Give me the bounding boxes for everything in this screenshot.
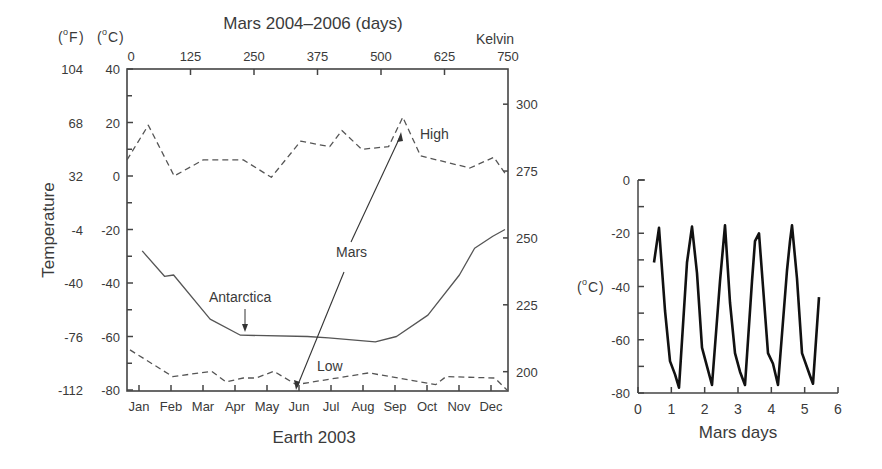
series-mars-temperature [654,225,819,387]
month-tick-label: Feb [160,399,182,414]
month-tick-label: Mar [192,399,215,414]
top-tick-label: 375 [307,49,329,64]
celsius-tick-label: 40 [106,62,120,77]
right-chart-series [654,225,819,387]
right-x-tick-label: 4 [767,401,775,417]
svg-text:o: o [63,27,68,37]
x-axis-title: Earth 2003 [272,428,355,447]
kelvin-tick-label: 300 [516,97,538,112]
plot-frame [127,69,508,391]
month-tick-label: Jan [129,399,150,414]
svg-text:F: F [69,29,78,45]
right-y-tick-label: 0 [623,173,630,188]
month-tick-label: Dec [479,399,503,414]
right-x-tick-label: 6 [834,401,842,417]
celsius-tick-label: -40 [101,276,120,291]
celsius-tick-label: -60 [101,330,120,345]
kelvin-tick-label: 250 [516,231,538,246]
right-y-tick-label: -80 [611,386,630,401]
series-high [127,117,507,177]
kelvin-axis-label: Kelvin [476,31,514,47]
left-chart-axes: 0125250375500625750401042068032-20-4-40-… [58,49,538,414]
left-chart-series [127,117,507,390]
svg-text:o: o [102,27,107,37]
fahrenheit-tick-label: -4 [71,223,83,238]
svg-text:): ) [119,29,124,45]
top-axis-title: Mars 2004–2006 (days) [223,14,403,33]
right-y-tick-label: -40 [611,280,630,295]
svg-text:): ) [79,29,84,45]
celsius-tick-label: 0 [113,169,120,184]
top-tick-label: 625 [434,49,456,64]
right-x-axis-title: Mars days [699,423,777,442]
month-tick-label: May [255,399,280,414]
fahrenheit-tick-label: 104 [61,62,83,77]
month-tick-label: Nov [447,399,471,414]
month-tick-label: Sep [383,399,406,414]
kelvin-tick-label: 200 [516,365,538,380]
annotation-high: High [420,126,449,142]
arrow-head-up-icon [397,132,403,142]
figure: Mars 2004–2006 (days) Kelvin ( o F ) ( o… [0,0,882,469]
celsius-tick-label: 20 [106,116,120,131]
annotation-low: Low [317,358,344,374]
right-y-tick-label: -20 [611,226,630,241]
annotation-antarctica: Antarctica [209,289,271,305]
mars-arrow [294,132,403,390]
top-tick-label: 750 [497,49,519,64]
fahrenheit-tick-label: -76 [64,330,83,345]
svg-text:o: o [582,277,587,287]
top-tick-label: 0 [127,49,134,64]
right-x-tick-label: 2 [701,401,709,417]
right-x-tick-label: 1 [667,401,675,417]
top-tick-label: 500 [370,49,392,64]
month-tick-label: Apr [225,399,246,414]
series-antarctica [142,230,505,342]
kelvin-tick-label: 275 [516,164,538,179]
right-chart-axes: 0-20-40-60-800123456 [611,173,842,417]
fahrenheit-unit-label: ( o F ) [58,27,84,45]
fahrenheit-tick-label: 32 [69,169,83,184]
svg-text:): ) [599,279,604,295]
right-x-tick-label: 0 [634,401,642,417]
antarctica-arrow [242,309,248,332]
svg-text:C: C [108,29,118,45]
month-tick-label: Oct [417,399,438,414]
fahrenheit-tick-label: -112 [58,383,83,398]
celsius-tick-label: -80 [101,383,120,398]
month-tick-label: Jul [323,399,340,414]
y-axis-title: Temperature [39,182,58,277]
fahrenheit-tick-label: -40 [64,276,83,291]
right-x-tick-label: 3 [734,401,742,417]
top-tick-label: 125 [180,49,202,64]
kelvin-tick-label: 225 [516,298,538,313]
month-tick-label: Aug [351,399,374,414]
svg-text:C: C [588,279,598,295]
month-tick-label: Jun [289,399,310,414]
fahrenheit-tick-label: 68 [69,116,83,131]
right-y-tick-label: -60 [611,333,630,348]
annotation-mars: Mars [336,244,367,260]
celsius-unit-label: ( o C ) [97,27,124,45]
celsius-tick-label: -20 [101,223,120,238]
top-tick-label: 250 [243,49,265,64]
temperature-comparison-chart: Mars 2004–2006 (days) Kelvin ( o F ) ( o… [0,0,882,469]
right-y-unit-label: ( o C ) [577,277,604,295]
right-x-tick-label: 5 [801,401,809,417]
arrow-down-icon [242,324,248,332]
